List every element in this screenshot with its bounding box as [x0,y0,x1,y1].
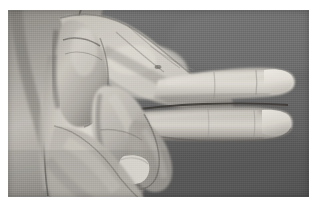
page-root [0,0,317,212]
photograph [8,10,309,197]
hand-photograph-artwork [8,10,309,197]
photo-caption [8,199,309,210]
photo-tone-bottom [8,150,309,197]
